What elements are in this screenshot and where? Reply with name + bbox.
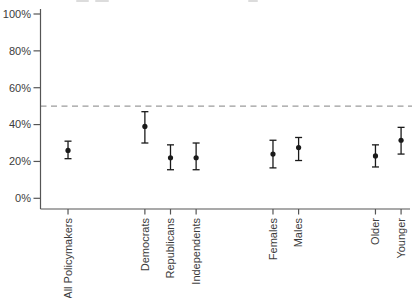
y-tick-label: 40%: [9, 118, 31, 130]
x-category-label: Democrats: [139, 218, 151, 272]
y-tick-label: 100%: [3, 8, 31, 20]
y-tick-label: 60%: [9, 82, 31, 94]
chart-canvas: 0%20%40%60%80%100%All PolicymakersDemocr…: [0, 0, 412, 298]
point-estimate: [296, 145, 301, 150]
point-estimate: [398, 138, 403, 143]
x-category-label: All Policymakers: [62, 218, 74, 298]
point-estimate: [168, 155, 173, 160]
point-estimate: [65, 148, 70, 153]
point-estimate: [194, 155, 199, 160]
x-category-label: Younger: [395, 218, 407, 259]
point-estimate: [270, 151, 275, 156]
policymaker-support-dot-plot: 0%20%40%60%80%100%All PolicymakersDemocr…: [0, 0, 412, 298]
x-category-label: Females: [267, 218, 279, 261]
y-tick-label: 20%: [9, 155, 31, 167]
x-category-label: Older: [369, 218, 381, 245]
x-category-label: Republicans: [164, 218, 176, 279]
point-estimate: [142, 124, 147, 129]
y-tick-label: 0%: [15, 192, 31, 204]
y-tick-label: 80%: [9, 45, 31, 57]
x-category-label: Independents: [190, 218, 202, 285]
point-estimate: [373, 153, 378, 158]
x-category-label: Males: [292, 218, 304, 248]
